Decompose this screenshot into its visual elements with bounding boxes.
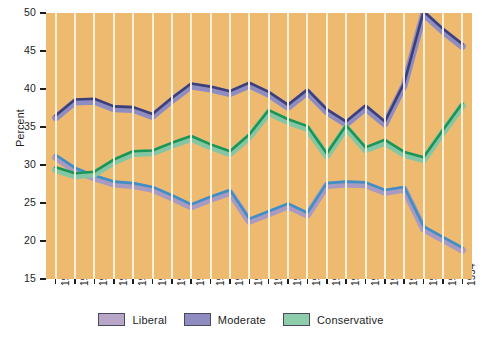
x-axis-tick	[462, 279, 464, 284]
x-axis-tick	[171, 279, 173, 284]
x-axis-tick	[74, 279, 76, 284]
x-axis-tick	[287, 279, 289, 284]
y-axis-label: 40	[0, 82, 36, 94]
plot-area	[46, 13, 472, 279]
x-axis-tick	[384, 279, 386, 284]
y-axis-label: 15	[0, 272, 36, 284]
gridline	[248, 13, 250, 279]
gridline	[423, 13, 425, 279]
legend-label: Conservative	[317, 314, 384, 326]
legend-swatch-moderate	[184, 313, 211, 326]
gridline	[306, 13, 308, 279]
y-axis-label: 25	[0, 196, 36, 208]
legend-swatch-conservative	[283, 313, 310, 326]
x-axis-tick	[190, 279, 192, 284]
y-axis-label: 20	[0, 234, 36, 246]
x-axis-tick	[326, 279, 328, 284]
x-axis-tick	[365, 279, 367, 284]
series-line-conservative	[56, 106, 463, 176]
x-axis-tick	[442, 279, 444, 284]
gridline	[132, 13, 134, 279]
gridline	[74, 13, 76, 279]
gridline	[403, 13, 405, 279]
series-lines	[46, 13, 472, 279]
chart-legend: LiberalModerateConservative	[0, 313, 482, 326]
gridline	[287, 13, 289, 279]
gridline	[210, 13, 212, 279]
legend-item-moderate[interactable]: Moderate	[184, 313, 266, 326]
line-chart: Percent 1520253035404550 197319741975197…	[0, 0, 482, 340]
y-axis-label: 45	[0, 44, 36, 56]
x-axis-tick	[94, 279, 96, 284]
series-edge-liberal	[56, 155, 463, 248]
gridline	[229, 13, 231, 279]
gridline	[93, 13, 95, 279]
gridline	[442, 13, 444, 279]
x-axis-tick	[345, 279, 347, 284]
gridline	[461, 13, 463, 279]
series-edge-moderate	[56, 13, 463, 122]
y-axis-label: 50	[0, 6, 36, 18]
x-axis-tick	[307, 279, 309, 284]
series-line-liberal	[56, 157, 463, 250]
gridline	[190, 13, 192, 279]
y-axis-label: 35	[0, 120, 36, 132]
gridline	[113, 13, 115, 279]
x-axis-tick	[268, 279, 270, 284]
x-axis-tick	[132, 279, 134, 284]
gridline	[152, 13, 154, 279]
x-axis-tick	[55, 279, 57, 284]
x-axis-tick	[210, 279, 212, 284]
gridline	[171, 13, 173, 279]
gridline	[55, 13, 57, 279]
x-axis-tick	[113, 279, 115, 284]
x-axis-tick	[229, 279, 231, 284]
legend-swatch-liberal	[98, 313, 125, 326]
gridline	[326, 13, 328, 279]
x-axis-tick	[403, 279, 405, 284]
gridline	[268, 13, 270, 279]
x-axis-tick	[423, 279, 425, 284]
legend-label: Liberal	[132, 314, 166, 326]
y-axis-label: 30	[0, 158, 36, 170]
legend-item-conservative[interactable]: Conservative	[283, 313, 384, 326]
x-axis-tick	[249, 279, 251, 284]
gridline	[345, 13, 347, 279]
legend-item-liberal[interactable]: Liberal	[98, 313, 166, 326]
legend-label: Moderate	[218, 314, 266, 326]
gridline	[365, 13, 367, 279]
x-axis-tick	[152, 279, 154, 284]
gridline	[384, 13, 386, 279]
